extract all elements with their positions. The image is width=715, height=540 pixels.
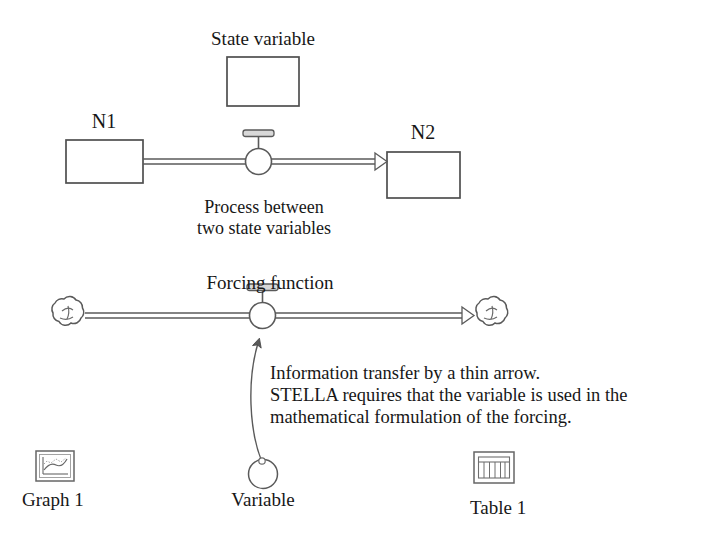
info-note-line2: STELLA requires that the variable is use… — [270, 385, 628, 407]
stock-n1-box[interactable] — [66, 140, 143, 183]
source-cloud[interactable] — [52, 296, 84, 325]
information-transfer-note: Information transfer by a thin arrow. ST… — [270, 363, 628, 428]
stock-n1-label: N1 — [92, 110, 116, 134]
table-icon[interactable] — [474, 452, 514, 483]
flow-pipe-valve-to-sink — [275, 307, 474, 324]
graph-icon[interactable] — [36, 451, 74, 481]
diagram-canvas: State variable N1 N2 Process between two… — [0, 0, 715, 540]
flow-pipe-source-to-valve — [85, 313, 250, 318]
sink-cloud[interactable] — [476, 296, 508, 325]
table-icon-label: Table 1 — [470, 497, 526, 519]
flow-pipe-valve-to-n2 — [271, 153, 387, 170]
flow-pipe-n1-to-valve — [143, 159, 246, 164]
converter-variable-label: Variable — [231, 489, 294, 511]
diagram-artwork — [0, 0, 715, 540]
info-note-line1: Information transfer by a thin arrow. — [270, 363, 628, 385]
stock-n2-label: N2 — [411, 121, 435, 145]
state-variable-label: State variable — [211, 28, 315, 50]
info-note-line3: mathematical formulation of the forcing. — [270, 407, 628, 429]
process-caption-line2: two state variables — [197, 218, 331, 239]
forcing-function-label: Forcing function — [206, 272, 333, 294]
process-caption: Process between two state variables — [197, 197, 331, 239]
stock-n2-box[interactable] — [387, 152, 460, 198]
state-variable-box[interactable] — [227, 57, 299, 106]
converter-variable[interactable] — [249, 458, 278, 489]
graph-icon-label: Graph 1 — [22, 489, 84, 511]
flow-valve-top[interactable] — [243, 130, 274, 175]
information-connector-arrow[interactable] — [251, 343, 262, 462]
process-caption-line1: Process between — [204, 197, 323, 217]
